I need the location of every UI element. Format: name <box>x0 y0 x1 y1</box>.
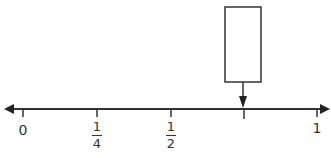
numerator: 1 <box>93 119 101 134</box>
pointer-arrow-icon <box>239 96 247 108</box>
numerator: 1 <box>167 119 175 134</box>
label-0: 0 <box>13 122 33 138</box>
label-one-half: 1 2 <box>161 120 181 151</box>
left-arrow-icon <box>4 104 14 114</box>
label-1: 1 <box>307 120 327 136</box>
label-one-quarter: 1 4 <box>87 120 107 151</box>
denominator: 2 <box>167 136 175 151</box>
denominator: 4 <box>93 136 101 151</box>
right-arrow-icon <box>320 104 330 114</box>
answer-box[interactable] <box>225 7 261 82</box>
